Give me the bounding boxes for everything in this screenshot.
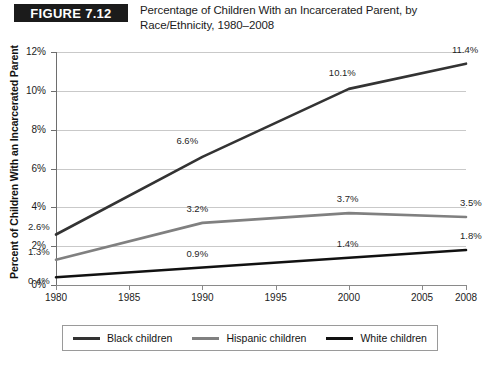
x-tick-mark <box>276 285 277 290</box>
x-tick-label: 2005 <box>400 292 444 303</box>
data-label: 0.9% <box>186 248 208 259</box>
chart-legend: Black children Hispanic children White c… <box>62 325 438 351</box>
legend-swatch-white-children <box>326 337 353 340</box>
series-line-hispanic-children <box>56 213 466 260</box>
x-tick-mark <box>466 285 467 290</box>
x-tick-label: 2008 <box>444 292 488 303</box>
x-tick-mark <box>349 285 350 290</box>
figure-title: Percentage of Children With an Incarcera… <box>140 3 492 33</box>
x-tick-label: 2000 <box>327 292 371 303</box>
data-label: 2.6% <box>28 221 50 232</box>
x-tick-label: 1985 <box>107 292 151 303</box>
legend-item-hispanic-children: Hispanic children <box>192 332 306 344</box>
figure-number-badge: FIGURE 7.12 <box>14 4 128 22</box>
y-tick-label: 6% <box>6 163 46 174</box>
data-label: 3.2% <box>186 203 208 214</box>
data-label: 10.1% <box>329 67 356 78</box>
series-line-white-children <box>56 250 466 277</box>
y-tick-label: 4% <box>6 201 46 212</box>
legend-label-hispanic-children: Hispanic children <box>226 332 306 344</box>
y-tick-label: 10% <box>6 85 46 96</box>
y-tick-label: 8% <box>6 124 46 135</box>
legend-label-black-children: Black children <box>107 332 172 344</box>
x-tick-label: 1990 <box>180 292 224 303</box>
x-tick-label: 1995 <box>254 292 298 303</box>
data-label: 11.4% <box>452 44 478 55</box>
legend-swatch-hispanic-children <box>192 337 219 340</box>
figure-container: FIGURE 7.12 Percentage of Children With … <box>0 0 500 365</box>
x-axis-line <box>56 285 467 286</box>
y-tick-label: 12% <box>6 46 46 57</box>
x-tick-mark <box>422 285 423 290</box>
legend-item-black-children: Black children <box>73 332 172 344</box>
figure-header: FIGURE 7.12 Percentage of Children With … <box>0 0 500 44</box>
x-tick-label: 1980 <box>34 292 78 303</box>
legend-item-white-children: White children <box>326 332 427 344</box>
data-label: 0.4% <box>28 275 50 286</box>
x-tick-mark <box>129 285 130 290</box>
data-label: 6.6% <box>176 135 198 146</box>
data-label: 1.8% <box>460 230 482 241</box>
chart-area: Percent of Children With an Incarcerated… <box>0 44 500 304</box>
series-line-black-children <box>56 64 466 235</box>
data-label: 1.3% <box>28 246 50 257</box>
x-tick-mark <box>202 285 203 290</box>
series-lines <box>56 52 466 285</box>
data-label: 3.7% <box>337 193 359 204</box>
legend-label-white-children: White children <box>360 332 427 344</box>
x-tick-mark <box>56 285 57 290</box>
data-label: 1.4% <box>337 238 359 249</box>
legend-swatch-black-children <box>73 337 100 340</box>
data-label: 3.5% <box>460 197 482 208</box>
